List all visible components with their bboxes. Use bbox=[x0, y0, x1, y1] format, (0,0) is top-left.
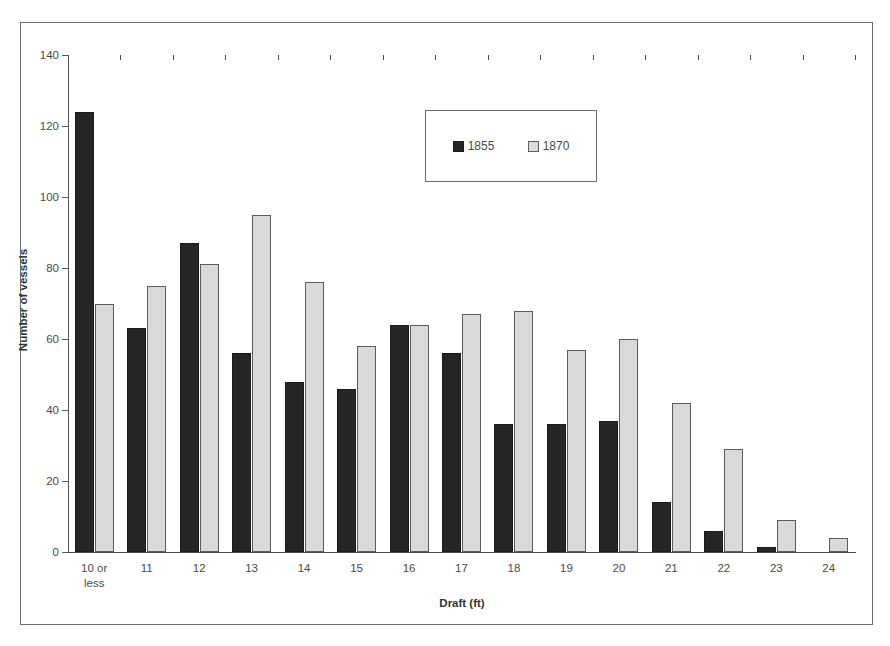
bar-1870[interactable] bbox=[252, 215, 271, 552]
legend-label-1855: 1855 bbox=[468, 139, 495, 153]
x-tick-label: 10 or less bbox=[68, 561, 120, 591]
bar-group bbox=[593, 55, 645, 552]
x-axis-title: Draft (ft) bbox=[439, 597, 484, 609]
bar-1855[interactable] bbox=[127, 328, 146, 552]
bar-group bbox=[330, 55, 382, 552]
bar-1870[interactable] bbox=[200, 264, 219, 552]
bar-group bbox=[698, 55, 750, 552]
y-tick-mark bbox=[62, 552, 68, 553]
y-tick-label: 140 bbox=[40, 49, 59, 61]
x-tick-label: 24 bbox=[803, 561, 855, 576]
bar-1870[interactable] bbox=[95, 304, 114, 553]
x-tick-label: 18 bbox=[488, 561, 540, 576]
bar-pair bbox=[330, 55, 382, 552]
x-tick-label: 13 bbox=[225, 561, 277, 576]
bar-1855[interactable] bbox=[704, 531, 723, 552]
bar-group bbox=[803, 55, 855, 552]
bar-group bbox=[750, 55, 802, 552]
legend-entry-1855[interactable]: 1855 bbox=[453, 139, 495, 153]
x-tick-label: 16 bbox=[383, 561, 435, 576]
bar-1855[interactable] bbox=[652, 502, 671, 552]
bar-1870[interactable] bbox=[619, 339, 638, 552]
bar-1870[interactable] bbox=[305, 282, 324, 552]
bar-pair bbox=[645, 55, 697, 552]
chart-figure: Number of vessels Draft (ft) 02040608010… bbox=[0, 0, 890, 646]
bar-1870[interactable] bbox=[410, 325, 429, 552]
y-tick-label: 100 bbox=[40, 191, 59, 203]
bar-pair bbox=[120, 55, 172, 552]
bar-1855[interactable] bbox=[390, 325, 409, 552]
x-tick-label: 19 bbox=[540, 561, 592, 576]
chart-legend: 1855 1870 bbox=[425, 110, 597, 182]
y-tick-label: 60 bbox=[46, 333, 59, 345]
bar-1870[interactable] bbox=[724, 449, 743, 552]
bar-1870[interactable] bbox=[357, 346, 376, 552]
bar-pair bbox=[68, 55, 120, 552]
x-tick-label: 20 bbox=[593, 561, 645, 576]
x-tick-label: 12 bbox=[173, 561, 225, 576]
bar-1870[interactable] bbox=[567, 350, 586, 552]
bar-group bbox=[68, 55, 120, 552]
bar-group bbox=[120, 55, 172, 552]
bar-pair bbox=[698, 55, 750, 552]
y-tick-label: 120 bbox=[40, 120, 59, 132]
x-tick-label: 22 bbox=[698, 561, 750, 576]
y-tick-label: 20 bbox=[46, 475, 59, 487]
bar-pair bbox=[225, 55, 277, 552]
bar-1870[interactable] bbox=[777, 520, 796, 552]
legend-swatch-1870-icon bbox=[528, 141, 539, 152]
y-axis-title: Number of vessels bbox=[17, 249, 29, 351]
bar-1870[interactable] bbox=[514, 311, 533, 552]
legend-label-1870: 1870 bbox=[543, 139, 570, 153]
x-tick-label: 17 bbox=[435, 561, 487, 576]
x-tick-label: 21 bbox=[645, 561, 697, 576]
bar-1870[interactable] bbox=[147, 286, 166, 552]
y-tick-label: 0 bbox=[53, 546, 59, 558]
bar-pair bbox=[278, 55, 330, 552]
y-tick-label: 80 bbox=[46, 262, 59, 274]
bar-pair bbox=[593, 55, 645, 552]
x-tick-mark bbox=[855, 55, 856, 60]
bar-pair bbox=[173, 55, 225, 552]
bar-1855[interactable] bbox=[232, 353, 251, 552]
x-axis-line bbox=[68, 552, 856, 553]
legend-row: 1855 1870 bbox=[426, 139, 596, 153]
bar-1855[interactable] bbox=[599, 421, 618, 552]
bar-pair bbox=[750, 55, 802, 552]
bar-group bbox=[645, 55, 697, 552]
bar-1870[interactable] bbox=[672, 403, 691, 552]
x-tick-label: 15 bbox=[330, 561, 382, 576]
legend-entry-1870[interactable]: 1870 bbox=[528, 139, 570, 153]
bar-1855[interactable] bbox=[337, 389, 356, 552]
bar-1855[interactable] bbox=[285, 382, 304, 552]
bar-group bbox=[278, 55, 330, 552]
y-tick-label: 40 bbox=[46, 404, 59, 416]
x-tick-label: 14 bbox=[278, 561, 330, 576]
bar-1855[interactable] bbox=[757, 547, 776, 552]
bar-group bbox=[173, 55, 225, 552]
bar-1855[interactable] bbox=[180, 243, 199, 552]
bar-1855[interactable] bbox=[547, 424, 566, 552]
bar-pair bbox=[803, 55, 855, 552]
bar-1855[interactable] bbox=[75, 112, 94, 552]
bar-1870[interactable] bbox=[829, 538, 848, 552]
bar-1870[interactable] bbox=[462, 314, 481, 552]
bar-1855[interactable] bbox=[442, 353, 461, 552]
x-tick-label: 11 bbox=[120, 561, 172, 576]
bar-1855[interactable] bbox=[494, 424, 513, 552]
bar-group bbox=[225, 55, 277, 552]
x-tick-label: 23 bbox=[750, 561, 802, 576]
legend-swatch-1855-icon bbox=[453, 141, 464, 152]
